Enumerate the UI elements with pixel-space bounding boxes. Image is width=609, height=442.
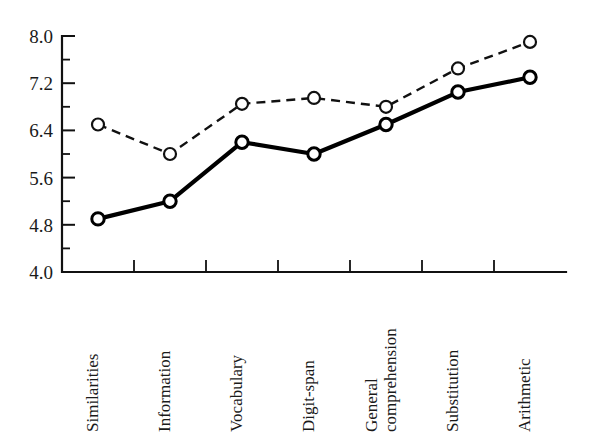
x-tick-label: Digit-span: [299, 360, 318, 432]
x-tick-label: Substitution: [443, 349, 462, 432]
x-tick-label: Similarities: [83, 354, 102, 432]
data-point-marker: [308, 148, 320, 160]
data-point-marker: [380, 101, 392, 113]
y-tick-label: 7.2: [29, 73, 53, 94]
y-tick-label: 8.0: [29, 26, 53, 47]
data-point-marker: [164, 148, 176, 160]
y-tick-label: 6.4: [29, 120, 53, 141]
y-axis-ticks: 4.04.85.66.47.28.0: [29, 26, 75, 283]
data-point-marker: [524, 36, 536, 48]
y-tick-label: 5.6: [29, 168, 53, 189]
x-axis-ticks: [134, 260, 494, 272]
data-point-marker: [524, 71, 536, 83]
data-point-marker: [452, 62, 464, 74]
series-upper-dashed: [92, 36, 536, 160]
y-tick-label: 4.0: [29, 262, 53, 283]
data-point-marker: [92, 119, 104, 131]
x-tick-label: Arithmetic: [515, 358, 534, 432]
x-tick-label: Information: [155, 350, 174, 432]
data-point-marker: [308, 92, 320, 104]
data-point-marker: [380, 118, 392, 130]
chart-figure: 4.04.85.66.47.28.0SimilaritiesInformatio…: [0, 0, 609, 442]
x-tick-label: comprehension: [381, 328, 400, 432]
line-chart: 4.04.85.66.47.28.0SimilaritiesInformatio…: [0, 0, 609, 442]
data-point-marker: [236, 136, 248, 148]
y-tick-label: 4.8: [29, 215, 53, 236]
data-point-marker: [164, 195, 176, 207]
x-tick-label: Vocabulary: [227, 354, 246, 432]
data-point-marker: [236, 98, 248, 110]
x-tick-label: General: [362, 378, 381, 432]
data-point-marker: [92, 213, 104, 225]
x-axis-labels: SimilaritiesInformationVocabularyDigit-s…: [83, 328, 534, 432]
data-point-marker: [452, 86, 464, 98]
